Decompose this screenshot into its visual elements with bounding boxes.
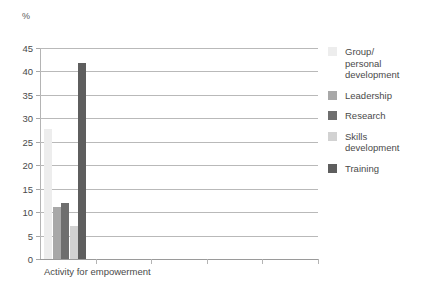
bar[interactable] bbox=[78, 63, 86, 259]
x-tick-mark bbox=[262, 259, 263, 264]
y-tick-label: 40 bbox=[22, 66, 33, 77]
legend-swatch-icon bbox=[328, 111, 337, 120]
y-tick-label: 0 bbox=[28, 254, 33, 265]
bar[interactable] bbox=[61, 203, 69, 259]
chart-legend: Group/ personal developmentLeadershipRes… bbox=[328, 46, 420, 183]
x-tick-mark bbox=[96, 259, 97, 264]
x-tick-mark bbox=[151, 259, 152, 264]
x-axis-category-label: Activity for empowerment bbox=[44, 266, 151, 277]
y-axis-unit-label: % bbox=[22, 11, 30, 21]
legend-label: Skills development bbox=[345, 131, 399, 154]
legend-swatch-icon bbox=[328, 164, 337, 173]
y-tick-label: 35 bbox=[22, 89, 33, 100]
bar[interactable] bbox=[44, 129, 52, 259]
y-tick-mark bbox=[36, 259, 40, 260]
legend-swatch-icon bbox=[328, 47, 337, 56]
bar-group bbox=[40, 48, 318, 259]
legend-item[interactable]: Skills development bbox=[328, 131, 420, 154]
chart-title: Figure: Activity for empowerment bbox=[80, 0, 340, 2]
bar[interactable] bbox=[53, 207, 61, 259]
y-tick-label: 5 bbox=[28, 230, 33, 241]
x-tick-mark bbox=[318, 259, 319, 264]
y-tick-label: 30 bbox=[22, 113, 33, 124]
y-tick-label: 45 bbox=[22, 43, 33, 54]
plot-area: 051015202530354045 bbox=[40, 48, 318, 259]
legend-label: Training bbox=[345, 163, 379, 175]
legend-label: Research bbox=[345, 110, 386, 122]
legend-item[interactable]: Training bbox=[328, 163, 420, 175]
legend-label: Leadership bbox=[345, 90, 392, 102]
legend-swatch-icon bbox=[328, 91, 337, 100]
x-tick-mark bbox=[207, 259, 208, 264]
y-tick-label: 25 bbox=[22, 136, 33, 147]
y-tick-label: 20 bbox=[22, 160, 33, 171]
y-tick-label: 15 bbox=[22, 183, 33, 194]
legend-item[interactable]: Research bbox=[328, 110, 420, 122]
legend-label: Group/ personal development bbox=[345, 46, 399, 81]
legend-item[interactable]: Leadership bbox=[328, 90, 420, 102]
legend-swatch-icon bbox=[328, 132, 337, 141]
y-tick-label: 10 bbox=[22, 207, 33, 218]
gridline bbox=[40, 259, 318, 260]
bar[interactable] bbox=[70, 226, 78, 259]
legend-item[interactable]: Group/ personal development bbox=[328, 46, 420, 81]
